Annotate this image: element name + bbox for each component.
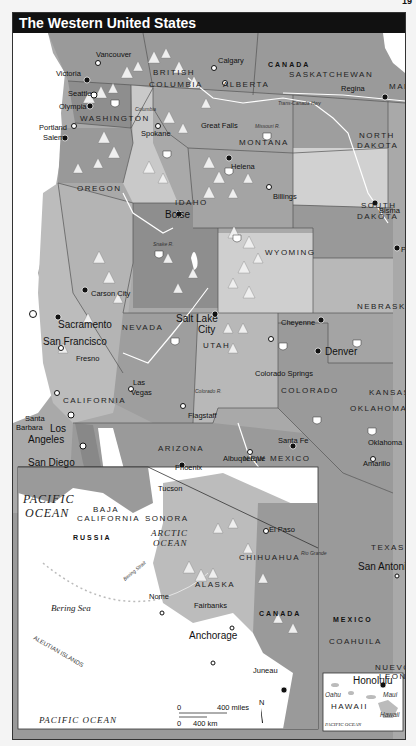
- label-utah: UTAH: [203, 341, 230, 350]
- label-coahuila: COAHUILA: [329, 637, 382, 646]
- label-canada: CANADA: [268, 61, 310, 68]
- svg-text:400 miles: 400 miles: [217, 703, 249, 712]
- label-columbia: Columbia: [135, 106, 156, 112]
- label-santa-fe: Santa Fe: [278, 436, 308, 445]
- label-vancouver: Vancouver: [96, 50, 132, 59]
- label-saskatchewan: SASKATCHEWAN: [289, 70, 373, 79]
- label-pacific-ocean-2: OCEAN: [25, 506, 69, 520]
- label-nebraska: NEBRASKA: [357, 302, 405, 311]
- label-portland: Portland: [39, 123, 67, 132]
- label-fairbanks: Fairbanks: [194, 601, 227, 610]
- label-rio-grande: Rio Grande: [301, 550, 327, 556]
- label-sonora: SONORA: [145, 514, 189, 523]
- label-los-angeles: Los: [50, 423, 66, 434]
- label-pacific-ocean: PACIFIC: [22, 492, 74, 506]
- label-san-francisco: San Francisco: [43, 336, 107, 347]
- label-oregon: OREGON: [77, 184, 122, 193]
- label-arctic-ocean-2: OCEAN: [153, 538, 188, 548]
- western-us-map: CANADA BRITISH COLUMBIA ALBERTA SASKATCH…: [13, 33, 405, 739]
- label-spokane: Spokane: [141, 129, 171, 138]
- label-oklahoma: OKLAHOMA: [350, 404, 405, 413]
- label-san-diego: San Diego: [28, 457, 75, 468]
- map-frame: The Western United States: [12, 12, 406, 740]
- label-new-mexico: NEW MEXICO: [243, 454, 310, 463]
- label-santa-barbara-2: Barbara: [16, 423, 44, 432]
- label-nome: Nome: [149, 592, 169, 601]
- label-calgary: Calgary: [218, 56, 244, 65]
- label-olympia: Olympia: [59, 102, 87, 111]
- label-denver: Denver: [325, 346, 358, 357]
- label-texas: TEXAS: [371, 543, 405, 552]
- label-north-dakota-2: DAKOTA: [357, 141, 398, 150]
- label-hawaii-island: Hawaii: [380, 711, 400, 718]
- label-seattle: Seattle: [68, 89, 91, 98]
- label-pacific-inset: PACIFIC OCEAN: [38, 715, 117, 725]
- label-manitoba: MANI: [389, 82, 405, 91]
- label-pierre: Pier: [401, 245, 405, 254]
- label-los-angeles-2: Angeles: [28, 434, 64, 445]
- label-san-antonio: San Antonio: [358, 561, 405, 572]
- label-cheyenne: Cheyenne: [281, 318, 315, 327]
- label-helena: Helena: [231, 162, 256, 171]
- label-colorado-river: Colorado R.: [195, 388, 222, 394]
- label-phoenix: Phoenix: [175, 463, 202, 472]
- label-salt-lake-2: City: [198, 324, 215, 335]
- page-number: 19: [402, 0, 412, 6]
- label-washington: WASHINGTON: [80, 114, 150, 123]
- label-north-dakota: NORTH: [359, 131, 395, 140]
- svg-text:0: 0: [177, 703, 181, 712]
- label-south-dakota-2: DAKOTA: [357, 212, 398, 221]
- label-missouri: Missouri R.: [255, 123, 280, 129]
- label-pacific-hawaii: PACIFIC OCEAN: [324, 722, 362, 727]
- label-juneau: Juneau: [253, 666, 278, 675]
- map-title: The Western United States: [13, 13, 405, 33]
- label-snake: Snake R.: [153, 241, 174, 247]
- label-hawaii: HAWAII: [331, 702, 368, 711]
- svg-text:0: 0: [177, 719, 181, 728]
- label-california: CALIFORNIA: [63, 396, 126, 405]
- label-nuevo-leon: NUEVO: [375, 663, 405, 672]
- svg-text:400 km: 400 km: [193, 719, 218, 728]
- label-sacramento: Sacramento: [58, 319, 112, 330]
- label-arizona: ARIZONA: [158, 444, 204, 453]
- label-fresno: Fresno: [76, 354, 99, 363]
- label-bering-sea: Bering Sea: [51, 603, 91, 613]
- label-canada-inset: CANADA: [259, 610, 301, 617]
- label-anchorage: Anchorage: [189, 630, 238, 641]
- label-santa-barbara: Santa: [25, 414, 45, 423]
- label-chihuahua: CHIHUAHUA: [239, 553, 300, 562]
- region-colorado: [218, 233, 313, 313]
- label-maui: Maui: [383, 691, 398, 698]
- label-baja-2: CALIFORNIA: [77, 514, 140, 523]
- region-oregon: [58, 128, 133, 183]
- label-british-columbia-2: COLUMBIA: [149, 80, 203, 89]
- label-kansas: KANSAS: [369, 388, 405, 397]
- region-wyoming: [188, 148, 293, 228]
- label-trans-canada: Trans-Canada Hwy: [278, 100, 321, 106]
- label-alaska: ALASKA: [195, 580, 235, 589]
- label-flagstaff: Flagstaff: [188, 411, 218, 420]
- label-salem: Salem: [43, 133, 64, 142]
- label-montana: MONTANA: [239, 138, 289, 147]
- label-baja: BAJA: [93, 505, 119, 514]
- label-alberta: ALBERTA: [223, 80, 269, 89]
- label-arctic-ocean: ARCTIC: [150, 528, 188, 538]
- label-el-paso: El Paso: [269, 525, 295, 534]
- label-oahu: Oahu: [325, 691, 341, 698]
- label-tucson: Tucson: [158, 484, 182, 493]
- label-victoria: Victoria: [56, 69, 82, 78]
- label-billings: Billings: [273, 192, 297, 201]
- label-amarillo: Amarillo: [363, 459, 390, 468]
- label-colorado: COLORADO: [281, 386, 339, 395]
- label-oklahoma-city: Oklahoma: [368, 438, 403, 447]
- label-salt-lake: Salt Lake: [176, 313, 218, 324]
- label-boise: Boise: [165, 209, 190, 220]
- label-las-vegas: Las: [133, 378, 145, 387]
- label-las-vegas-2: Vegas: [131, 388, 152, 397]
- label-carson-city: Carson City: [91, 289, 130, 298]
- label-south-dakota: SOUTH: [361, 201, 397, 210]
- label-honolulu: Honolulu: [353, 675, 392, 686]
- label-colorado-springs: Colorado Springs: [255, 369, 313, 378]
- label-british-columbia: BRITISH: [153, 68, 195, 77]
- label-great-falls: Great Falls: [201, 121, 238, 130]
